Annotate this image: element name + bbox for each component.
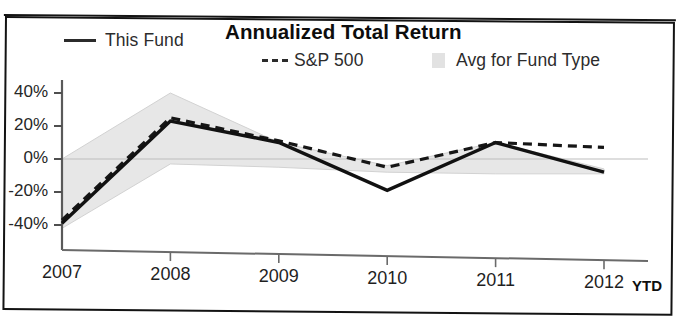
x-axis-tick-label: 2010 (367, 268, 407, 289)
x-axis-tick-label: 2012 (584, 272, 624, 293)
y-axis-tick-label: 0% (0, 148, 48, 168)
y-axis-tick-label: 40% (0, 82, 48, 102)
x-axis-tick-label: 2008 (150, 264, 190, 285)
x-axis-ytd-label: YTD (632, 277, 662, 294)
y-axis-tick-label: -40% (0, 214, 48, 234)
plot-area: 40%20%0%-20%-40% 20072008200920102011201… (0, 0, 679, 317)
y-axis-tick-label: -20% (0, 181, 48, 201)
x-axis-tick-label: 2007 (42, 262, 82, 283)
chart-panel-content: Annualized Total Return This Fund S&P 50… (0, 0, 679, 317)
y-axis-tick-label: 20% (0, 115, 48, 135)
y-axis-tickmarks (54, 93, 62, 225)
x-axis-tickmarks (170, 252, 604, 269)
x-axis-line (62, 250, 648, 261)
chart-svg (0, 0, 679, 317)
x-axis-tick-label: 2011 (476, 270, 515, 291)
avg-fund-type-band (62, 93, 604, 228)
x-axis-tick-label: 2009 (259, 266, 299, 287)
